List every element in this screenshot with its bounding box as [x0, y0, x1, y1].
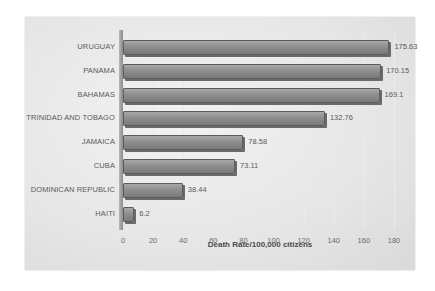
- value-label: 169.1: [385, 90, 404, 100]
- x-tick-label: 100: [259, 236, 289, 246]
- x-tick-label: 40: [168, 236, 198, 246]
- x-tick-label: 60: [198, 236, 228, 246]
- value-label: 73.11: [240, 161, 258, 171]
- bar: [123, 64, 381, 79]
- x-tick-label: 160: [349, 236, 379, 246]
- bar: [123, 159, 235, 174]
- gridline: [183, 32, 184, 228]
- x-tick-label: 120: [289, 236, 319, 246]
- bar: [123, 183, 183, 198]
- bar: [123, 135, 243, 150]
- category-label: JAMAICA: [5, 137, 115, 147]
- category-label: CUBA: [5, 161, 115, 171]
- value-label: 6.2: [139, 209, 149, 219]
- gridline: [394, 32, 395, 228]
- gridline: [304, 32, 305, 228]
- x-tick-label: 20: [138, 236, 168, 246]
- bar: [123, 207, 134, 222]
- value-label: 78.58: [248, 137, 267, 147]
- category-axis-wall: [119, 30, 123, 230]
- bar: [123, 111, 325, 126]
- gridline: [274, 32, 275, 228]
- bar: [123, 40, 389, 55]
- gridline: [243, 32, 244, 228]
- x-tick-label: 80: [228, 236, 258, 246]
- value-label: 175.63: [394, 42, 417, 52]
- value-label: 38.44: [188, 185, 207, 195]
- category-label: BAHAMAS: [5, 90, 115, 100]
- x-tick-label: 0: [108, 236, 138, 246]
- value-label: 170.15: [386, 66, 409, 76]
- category-label: TRINIDAD AND TOBAGO: [5, 113, 115, 123]
- x-tick-label: 140: [319, 236, 349, 246]
- gridline: [153, 32, 154, 228]
- category-label: HAITI: [5, 209, 115, 219]
- category-label: DOMINICAN REPUBLIC: [5, 185, 115, 195]
- gridline: [213, 32, 214, 228]
- bar-chart: Death Rate/100,000 citizens 020406080100…: [0, 0, 435, 291]
- x-tick-label: 180: [379, 236, 409, 246]
- value-label: 132.76: [330, 113, 353, 123]
- gridline: [364, 32, 365, 228]
- gridline: [334, 32, 335, 228]
- bar: [123, 88, 380, 103]
- category-label: PANAMA: [5, 66, 115, 76]
- category-label: URUGUAY: [5, 42, 115, 52]
